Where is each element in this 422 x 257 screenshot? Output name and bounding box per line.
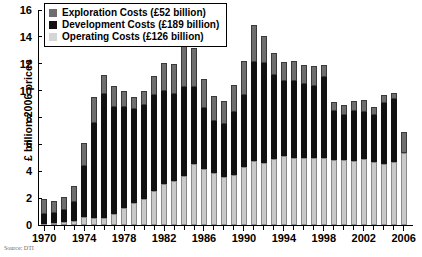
bar-segment-op-1980 (141, 199, 147, 225)
bar-segment-op-2004 (381, 164, 387, 225)
bar-segment-exp-1999 (331, 102, 337, 111)
x-tick-label: 1978 (102, 231, 146, 245)
x-tick-mark (333, 226, 334, 230)
bar-segment-dev-1990 (241, 95, 247, 167)
bar-segment-exp-1979 (131, 97, 137, 108)
bar-segment-dev-1972 (61, 210, 67, 221)
bar-segment-exp-1991 (251, 25, 257, 63)
bar-segment-dev-2001 (351, 111, 357, 160)
bar-segment-op-1974 (81, 217, 87, 225)
bar-segment-exp-1981 (151, 76, 157, 95)
x-tick-label: 2006 (382, 231, 422, 245)
bar-segment-exp-1986 (201, 79, 207, 109)
x-tick-mark (373, 226, 374, 230)
x-tick-label: 2002 (342, 231, 386, 245)
bar-segment-dev-1994 (281, 81, 287, 157)
bar-segment-dev-1983 (171, 94, 177, 181)
bar-segment-exp-1997 (311, 66, 317, 85)
bar-segment-op-1972 (61, 222, 67, 225)
x-tick-mark (64, 226, 65, 230)
x-tick-mark (94, 226, 95, 230)
bar-segment-exp-1989 (231, 85, 237, 112)
bar-segment-op-1975 (91, 218, 97, 225)
bar-segment-dev-2003 (371, 115, 377, 162)
bar-segment-dev-1992 (261, 63, 267, 163)
x-tick-label: 1986 (182, 231, 226, 245)
bar-segment-exp-2004 (381, 95, 387, 103)
x-tick-mark (184, 226, 185, 230)
x-tick-mark (313, 226, 314, 230)
bar-segment-op-1977 (111, 214, 117, 225)
bar-segment-exp-2001 (351, 101, 357, 112)
y-tick-label: 4 (6, 163, 32, 179)
bar-segment-exp-1987 (211, 96, 217, 121)
bar-segment-op-1999 (331, 160, 337, 225)
bar-segment-op-1998 (321, 158, 327, 225)
bar-segment-op-1986 (201, 169, 207, 225)
x-tick-mark (54, 226, 55, 230)
bar-segment-dev-2000 (341, 115, 347, 159)
y-tick-label: 10 (6, 83, 32, 99)
bar-segment-exp-1973 (71, 186, 77, 202)
bar-segment-op-1991 (251, 161, 257, 225)
bar-segment-dev-1978 (121, 107, 127, 208)
bar-segment-exp-1971 (51, 201, 57, 213)
bar-segment-dev-1982 (161, 91, 167, 184)
bar-segment-dev-1993 (271, 75, 277, 159)
bar-segment-op-1978 (121, 208, 127, 225)
x-tick-mark (114, 226, 115, 230)
bar-segment-exp-2003 (371, 107, 377, 114)
bar-segment-op-2000 (341, 160, 347, 225)
chart-figure: £ billion 2006 prices 0246810121416 1970… (0, 0, 422, 257)
bar-segment-dev-1976 (101, 94, 107, 218)
bar-segment-op-1985 (191, 164, 197, 225)
x-tick-mark (293, 226, 294, 230)
bar-segment-op-1983 (171, 181, 177, 225)
x-tick-label: 1974 (62, 231, 106, 245)
x-tick-mark (74, 226, 75, 230)
y-tick-label: 6 (6, 136, 32, 152)
bar-segment-op-2005 (391, 162, 397, 225)
bar-segment-dev-1977 (111, 107, 117, 215)
bar-segment-op-1979 (131, 203, 137, 225)
bar-segment-exp-1995 (291, 61, 297, 80)
bar-segment-exp-1976 (101, 75, 107, 94)
x-tick-mark (213, 226, 214, 230)
x-tick-mark (393, 226, 394, 230)
bar-segment-dev-1971 (51, 213, 57, 223)
x-tick-mark (144, 226, 145, 230)
bar-segment-dev-1991 (251, 62, 257, 161)
bar-segment-dev-2002 (361, 112, 367, 159)
bar-segment-op-2003 (371, 162, 377, 225)
bar-segment-exp-1978 (121, 91, 127, 106)
x-tick-label: 1990 (222, 231, 266, 245)
bar-segment-dev-1986 (201, 108, 207, 169)
bar-segment-op-1984 (181, 176, 187, 225)
x-tick-mark (303, 226, 304, 230)
bar-segment-exp-1977 (111, 86, 117, 107)
bar-segment-dev-1984 (181, 87, 187, 176)
bar-segment-dev-1979 (131, 109, 137, 203)
bar-segment-exp-1993 (271, 53, 277, 75)
legend-label-operating: Operating Costs (£126 billion) (62, 31, 204, 43)
bar-segment-dev-1970 (41, 214, 47, 224)
legend-swatch-operating-icon (49, 33, 57, 41)
bar-segment-exp-2005 (391, 93, 397, 99)
bar-segment-dev-1996 (301, 84, 307, 159)
x-tick-mark (174, 226, 175, 230)
bar-segment-op-1993 (271, 159, 277, 225)
chart-legend: Exploration Costs (£52 billion) Developm… (44, 3, 227, 47)
legend-item-exploration: Exploration Costs (£52 billion) (49, 7, 219, 19)
bar-segment-exp-1983 (171, 64, 177, 94)
y-tick-label: 14 (6, 29, 32, 45)
bar-segment-op-1990 (241, 167, 247, 225)
x-tick-label: 1970 (22, 231, 66, 245)
x-tick-mark (253, 226, 254, 230)
bar-segment-op-1973 (71, 221, 77, 225)
bar-segment-exp-1985 (191, 48, 197, 87)
legend-swatch-exploration-icon (49, 9, 57, 17)
bar-segment-op-1981 (151, 191, 157, 225)
bar-segment-dev-1997 (311, 86, 317, 158)
bar-segment-op-1989 (231, 175, 237, 225)
bar-segment-exp-1974 (81, 143, 87, 166)
